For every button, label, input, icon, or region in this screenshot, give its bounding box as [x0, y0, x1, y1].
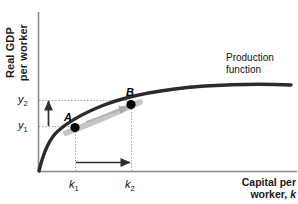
y-axis-label: Real GDP per worker [4, 17, 29, 89]
x-tick-label-k1: k1 [69, 178, 79, 194]
x-tick-k2-sub: 2 [131, 184, 135, 193]
y-axis-label-line2: per worker [17, 24, 29, 81]
y-tick-label-y1: y1 [18, 119, 28, 135]
point-label-a: A [64, 111, 72, 124]
y-axis-label-line1: Real GDP [4, 27, 16, 78]
y-tick-y1-sub: 1 [24, 125, 28, 134]
y-tick-label-y2: y2 [18, 93, 28, 109]
x-tick-k1-sub: 1 [75, 184, 79, 193]
axes [38, 12, 297, 172]
chart-canvas [0, 0, 298, 204]
curve-label-line1: Production [226, 52, 274, 63]
x-axis-label: Capital per worker, k [242, 176, 296, 200]
production-function-chart: Real GDP per worker Capital per worker, … [0, 0, 298, 204]
curve-label-line2: function [226, 64, 261, 75]
x-tick-label-k2: k2 [125, 178, 135, 194]
x-axis-label-symbol: k [290, 188, 296, 200]
x-axis-label-line1: Capital per [242, 176, 296, 188]
point-label-b: B [126, 86, 134, 99]
data-point-b[interactable] [126, 100, 135, 109]
x-axis-label-line2: worker, [250, 188, 290, 200]
production-function-annotation: Production function [226, 52, 274, 75]
y-tick-y2-sub: 2 [24, 99, 28, 108]
data-point-a[interactable] [70, 123, 79, 132]
